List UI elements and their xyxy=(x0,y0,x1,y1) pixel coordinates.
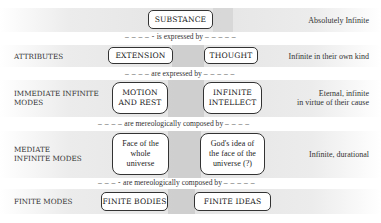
box-line: universe xyxy=(122,159,159,169)
dashes-right: – – – – – xyxy=(224,178,255,187)
box-line: universe (?) xyxy=(209,159,256,169)
box-line: Face of the xyxy=(122,139,159,149)
label-line: MEDIATE xyxy=(14,145,82,154)
center-strip xyxy=(172,45,204,67)
box-infinite-intellect: INFINITE INTELLECT xyxy=(203,82,262,114)
connector-text: are expressed by xyxy=(151,69,202,78)
box-line: whole xyxy=(122,149,159,159)
dashes-left: – – – – - xyxy=(125,32,155,41)
connector-are-mereologically-composed-by-2: – – – - are mereologically composed by –… xyxy=(98,179,255,187)
level-label-attributes: ATTRIBUTES xyxy=(14,52,63,61)
level-description-mediate-infinite-modes: Infinite, durational xyxy=(309,150,369,159)
level-label-finite-modes: FINITE MODES xyxy=(14,197,72,206)
connector-is-expressed-by: – – – – - is expressed by – – – – – xyxy=(125,33,236,41)
level-label-immediate-infinite-modes: IMMEDIATE INFINITE MODES xyxy=(14,89,99,107)
center-strip xyxy=(168,131,201,178)
dashes-left: – – – – xyxy=(98,119,122,128)
label-line: INFINITE MODES xyxy=(14,154,82,163)
dashes-right: – – – – – xyxy=(205,32,236,41)
center-strip xyxy=(168,80,204,117)
label-line: IMMEDIATE INFINITE xyxy=(14,89,99,98)
connector-are-mereologically-composed-by: – – – – are mereologically composed by –… xyxy=(98,120,250,128)
box-finite-ideas: FINITE IDEAS xyxy=(194,192,271,211)
box-label: THOUGHT xyxy=(210,51,253,61)
box-thought: THOUGHT xyxy=(204,47,258,64)
level-description-substance: Absolutely Infinite xyxy=(308,16,369,25)
connector-text: is expressed by xyxy=(157,32,203,41)
level-description-immediate-infinite-modes: Eternal, infinite in virtue of their cau… xyxy=(297,89,369,107)
label-line: MODES xyxy=(14,98,99,107)
dashes-right: – – – – – xyxy=(204,69,235,78)
box-label: SUBSTANCE xyxy=(155,15,206,25)
box-extension: EXTENSION xyxy=(108,47,173,64)
box-face-of-the-whole-universe: Face of the whole universe xyxy=(112,133,169,175)
level-label-mediate-infinite-modes: MEDIATE INFINITE MODES xyxy=(14,145,82,163)
box-label: EXTENSION xyxy=(115,51,165,61)
box-line: the face of the xyxy=(209,149,256,159)
box-label: FINITE BODIES xyxy=(102,197,166,207)
box-finite-bodies: FINITE BODIES xyxy=(101,192,168,211)
box-line: MOTION xyxy=(119,88,162,98)
box-substance: SUBSTANCE xyxy=(148,10,213,29)
box-line: INTELLECT xyxy=(209,98,257,108)
connector-text: are mereologically composed by xyxy=(124,119,223,128)
level-description-attributes: Infinite in their own kind xyxy=(289,52,369,61)
dashes-left: – – – – xyxy=(125,69,149,78)
box-label: FINITE IDEAS xyxy=(204,197,261,207)
dashes-right: – – – – xyxy=(225,119,249,128)
center-strip xyxy=(168,189,195,214)
connector-are-expressed-by: – – – – are expressed by – – – – – xyxy=(125,70,235,78)
box-line: God's idea of xyxy=(209,139,256,149)
box-gods-idea-of-the-face-of-the-universe: God's idea of the face of the universe (… xyxy=(200,133,265,175)
box-line: AND REST xyxy=(119,98,162,108)
center-strip xyxy=(213,8,233,32)
box-motion-and-rest: MOTION AND REST xyxy=(112,82,168,114)
connector-text: are mereologically composed by xyxy=(123,178,222,187)
box-line: INFINITE xyxy=(209,88,257,98)
description-line: in virtue of their cause xyxy=(297,98,369,107)
dashes-left: – – – - xyxy=(98,178,121,187)
description-line: Eternal, infinite xyxy=(297,89,369,98)
